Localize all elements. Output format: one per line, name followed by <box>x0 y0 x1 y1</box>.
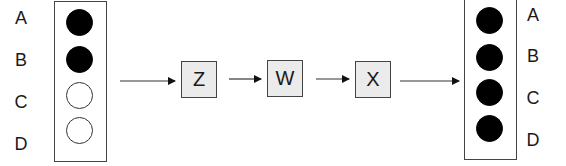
step-w: W <box>267 60 303 97</box>
step-x: X <box>355 61 391 98</box>
output-bit-c <box>476 79 503 106</box>
step-z: Z <box>181 61 217 98</box>
output-bit-b <box>476 44 503 71</box>
output-state-panel <box>464 0 517 160</box>
output-bit-d <box>476 115 503 142</box>
output-label-b: B <box>525 47 541 65</box>
output-label-c: C <box>525 89 541 107</box>
output-label-d: D <box>525 131 541 149</box>
output-bit-a <box>476 7 503 34</box>
output-label-a: A <box>525 6 541 24</box>
